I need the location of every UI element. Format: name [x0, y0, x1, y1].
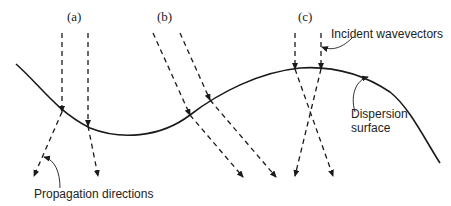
- case-b-rays: [153, 33, 276, 177]
- case-c-rays: [295, 33, 333, 176]
- case-c-label: (c): [298, 10, 312, 24]
- case-a-label: (a): [67, 10, 81, 24]
- case-b-label: (b): [157, 10, 172, 24]
- dispersion-diagram: (a) (b) (c) Incident wavevectors Dispers…: [0, 0, 451, 206]
- propagation-directions-label: Propagation directions: [34, 187, 153, 201]
- incident-wavevectors-label: Incident wavevectors: [331, 27, 443, 41]
- propagation-leader: [44, 157, 60, 188]
- dispersion-label-line2: surface: [351, 121, 390, 135]
- case-a-rays: [34, 33, 98, 176]
- dispersion-label-line1: Dispersion: [351, 107, 408, 121]
